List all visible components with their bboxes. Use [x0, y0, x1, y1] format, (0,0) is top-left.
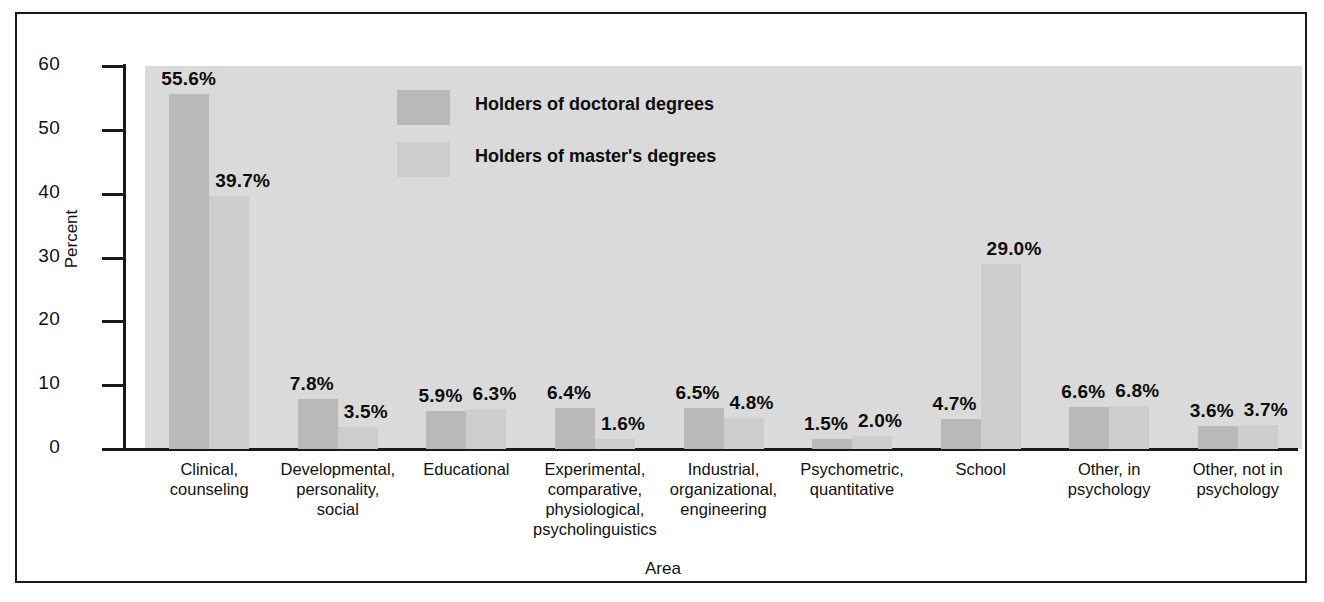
- y-axis-tick-label-30: 30: [38, 245, 60, 267]
- bar-doctoral-6: [941, 419, 981, 449]
- legend-swatch-doctoral: [397, 90, 450, 125]
- legend-item-masters: Holders of master's degrees: [397, 136, 827, 188]
- y-axis-tick-label-60: 60: [38, 53, 60, 75]
- bar-value-doctoral-4: 6.5%: [676, 382, 720, 404]
- bar-doctoral-7: [1069, 407, 1109, 449]
- figure-frame: 0102030405060 Percent 55.6%39.7%7.8%3.5%…: [15, 12, 1307, 583]
- bar-value-masters-4: 4.8%: [730, 392, 774, 414]
- bar-value-doctoral-8: 3.6%: [1190, 400, 1234, 422]
- bar-doctoral-0: [169, 94, 209, 449]
- legend-label-doctoral: Holders of doctoral degrees: [475, 94, 714, 115]
- y-axis-tick-40: [102, 193, 124, 196]
- y-axis-tick-label-50: 50: [38, 117, 60, 139]
- bar-value-masters-2: 6.3%: [472, 383, 516, 405]
- bar-masters-6: [981, 264, 1021, 449]
- y-axis-tick-label-40: 40: [38, 181, 60, 203]
- y-axis-tick-60: [102, 65, 124, 68]
- bar-masters-4: [724, 418, 764, 449]
- y-axis-tick-label-20: 20: [38, 308, 60, 330]
- bar-value-masters-7: 6.8%: [1115, 380, 1159, 402]
- bar-value-doctoral-5: 1.5%: [804, 413, 848, 435]
- y-axis-tick-30: [102, 257, 124, 260]
- bar-masters-8: [1238, 425, 1278, 449]
- bar-value-masters-6: 29.0%: [987, 238, 1042, 260]
- bar-doctoral-2: [426, 411, 466, 449]
- bar-doctoral-5: [812, 439, 852, 449]
- bar-doctoral-8: [1198, 426, 1238, 449]
- bar-masters-0: [209, 196, 249, 449]
- bar-value-doctoral-2: 5.9%: [418, 385, 462, 407]
- bar-doctoral-4: [684, 408, 724, 449]
- bar-masters-7: [1109, 406, 1149, 449]
- bar-masters-2: [466, 409, 506, 449]
- y-axis-tick-label-10: 10: [38, 372, 60, 394]
- bar-masters-1: [338, 427, 378, 449]
- bar-value-doctoral-1: 7.8%: [290, 373, 334, 395]
- bar-value-doctoral-0: 55.6%: [161, 68, 216, 90]
- bar-value-doctoral-3: 6.4%: [547, 382, 591, 404]
- x-axis-title: Area: [17, 559, 1309, 579]
- bar-doctoral-3: [555, 408, 595, 449]
- x-axis-label-8: Other, not inpsychology: [1155, 459, 1320, 499]
- bar-masters-5: [852, 436, 892, 449]
- y-axis-tick-label-0: 0: [49, 436, 60, 458]
- legend-label-masters: Holders of master's degrees: [475, 146, 716, 167]
- bar-value-doctoral-6: 4.7%: [933, 393, 977, 415]
- bar-value-masters-5: 2.0%: [858, 410, 902, 432]
- y-axis-tick-0: [102, 448, 124, 451]
- bar-value-masters-3: 1.6%: [601, 413, 645, 435]
- bar-value-masters-8: 3.7%: [1244, 399, 1288, 421]
- bar-value-doctoral-7: 6.6%: [1061, 381, 1105, 403]
- y-axis-tick-10: [102, 384, 124, 387]
- legend-item-doctoral: Holders of doctoral degrees: [397, 84, 827, 136]
- y-axis-title: Percent: [62, 179, 82, 299]
- y-axis-tick-20: [102, 320, 124, 323]
- chart-legend: Holders of doctoral degrees Holders of m…: [397, 84, 827, 188]
- legend-swatch-masters: [397, 142, 450, 177]
- bar-value-masters-1: 3.5%: [344, 401, 388, 423]
- y-axis-tick-50: [102, 129, 124, 132]
- bar-masters-3: [595, 439, 635, 449]
- bar-doctoral-1: [298, 399, 338, 449]
- bar-value-masters-0: 39.7%: [215, 170, 270, 192]
